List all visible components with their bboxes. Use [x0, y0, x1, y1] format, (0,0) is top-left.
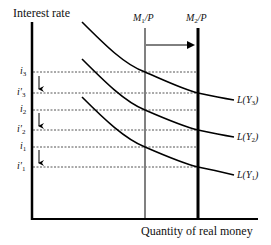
tick-i3-prime: i'3 [17, 87, 25, 99]
label-ly3: L(Y3) [237, 95, 258, 107]
tick-i1: i1 [20, 141, 26, 153]
interest-level-lines [33, 72, 198, 167]
demand-curve-ly1 [82, 97, 234, 175]
tick-i2: i2 [20, 104, 26, 116]
label-ly1: L(Y1) [237, 170, 258, 182]
m1p-label: M1/P [133, 13, 154, 25]
demand-curve-ly3 [82, 22, 234, 100]
x-axis-label: Quantity of real money [141, 225, 253, 237]
money-market-diagram: Interest rate Quantity of real money M1/… [0, 0, 271, 245]
tick-i3: i3 [20, 66, 26, 78]
m2p-label: M2/P [186, 13, 207, 25]
diagram-canvas [0, 0, 271, 245]
tick-i2-prime: i'2 [17, 124, 25, 136]
label-ly2: L(Y2) [237, 132, 258, 144]
y-axis-label: Interest rate [13, 7, 70, 19]
demand-curve-ly2 [82, 59, 234, 137]
tick-i1-prime: i'1 [17, 161, 25, 173]
